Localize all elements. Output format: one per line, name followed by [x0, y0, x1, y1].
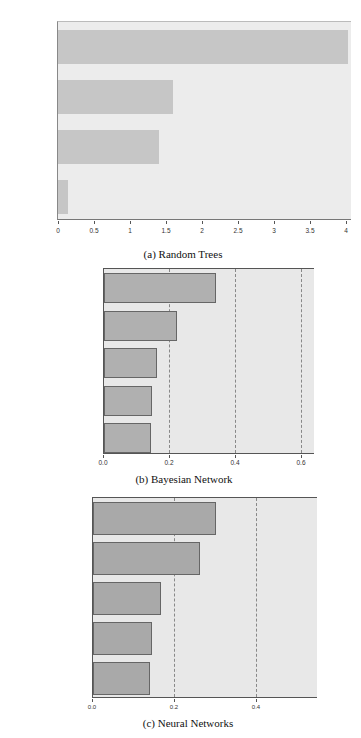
plot-area-bayesian-network	[103, 268, 314, 454]
gridline	[256, 498, 257, 697]
bar-professional	[93, 662, 150, 695]
bar-gender	[58, 180, 68, 214]
x-tick-mark	[274, 221, 275, 224]
x-tick-label: 0	[56, 227, 60, 234]
x-tick-mark	[58, 221, 59, 224]
x-tick-label: 0.0	[88, 704, 96, 710]
bar-ethnic	[104, 348, 157, 378]
bar-age	[58, 30, 348, 64]
x-tick-mark	[174, 699, 175, 702]
bar-education	[93, 622, 152, 655]
bar-ethnic	[93, 542, 200, 575]
x-tick-mark	[235, 455, 236, 458]
x-tick-mark	[310, 221, 311, 224]
bar-ethnic	[58, 130, 159, 164]
x-tick-mark	[238, 221, 239, 224]
bar-age	[93, 502, 216, 535]
bar-education	[58, 80, 173, 114]
x-tick-label: 3.5	[305, 227, 314, 234]
x-tick-mark	[202, 221, 203, 224]
plot-area-neural-networks	[92, 497, 317, 698]
x-tick-label: 3	[272, 227, 276, 234]
caption-random-trees: (a) Random Trees	[144, 248, 223, 260]
gridline	[301, 269, 302, 453]
x-tick-label: 0.4	[252, 704, 260, 710]
x-tick-label: 2	[200, 227, 204, 234]
x-tick-label: 0.0	[98, 459, 107, 466]
gridline	[235, 269, 236, 453]
x-tick-label: 0.6	[296, 459, 305, 466]
x-tick-label: 1.5	[161, 227, 170, 234]
x-tick-label: 4	[344, 227, 348, 234]
x-tick-mark	[301, 455, 302, 458]
x-tick-mark	[256, 699, 257, 702]
x-tick-label: 1	[128, 227, 132, 234]
x-tick-mark	[166, 221, 167, 224]
bar-education	[104, 273, 216, 303]
x-tick-label: 0.2	[164, 459, 173, 466]
x-tick-mark	[130, 221, 131, 224]
caption-bayesian-network: (b) Bayesian Network	[135, 473, 232, 485]
bar-gender	[104, 386, 152, 416]
x-tick-mark	[103, 455, 104, 458]
x-tick-label: 2.5	[233, 227, 242, 234]
bar-age	[104, 311, 177, 341]
x-tick-mark	[92, 699, 93, 702]
x-tick-label: 0.4	[230, 459, 239, 466]
x-tick-mark	[169, 455, 170, 458]
plot-area-random-trees	[57, 21, 351, 220]
x-tick-mark	[346, 221, 347, 224]
bar-gender	[93, 582, 161, 615]
x-tick-label: 0.5	[89, 227, 98, 234]
x-tick-mark	[94, 221, 95, 224]
caption-neural-networks: (c) Neural Networks	[143, 717, 233, 729]
bar-professional	[104, 423, 151, 453]
x-tick-label: 0.2	[170, 704, 178, 710]
